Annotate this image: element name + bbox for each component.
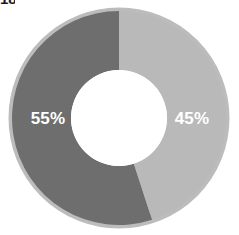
donut-center-hole bbox=[71, 70, 167, 166]
donut-chart-figure: 18 55% 45% bbox=[0, 0, 239, 235]
slice-label-55: 55% bbox=[31, 109, 66, 128]
donut-chart-svg: 55% 45% bbox=[0, 0, 239, 235]
slice-label-45: 45% bbox=[175, 109, 210, 128]
